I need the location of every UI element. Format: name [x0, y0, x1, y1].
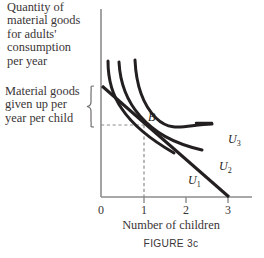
curve-label-u2-text: U [219, 159, 228, 173]
figure-container: Quantity of material goods for adults' c… [0, 0, 264, 258]
indifference-curve-u3 [135, 60, 212, 127]
curve-label-u1-sub: 1 [197, 180, 201, 189]
curve-label-u1: U1 [176, 158, 201, 204]
curve-label-u1-text: U [188, 173, 197, 187]
y-axis-label: Quantity of material goods for adults' c… [7, 1, 99, 68]
figure-caption: FIGURE 3c [101, 238, 241, 249]
curve-label-u3-sub: 3 [237, 139, 241, 148]
tangency-point-label-b: B [148, 110, 155, 125]
brace-bracket [87, 86, 94, 127]
x-axis-label: Number of children [101, 218, 241, 233]
x-tick-label-1: 1 [136, 203, 152, 218]
x-tick-label-3: 3 [220, 203, 236, 218]
x-tick-label-2: 2 [178, 203, 194, 218]
x-tick-label-0: 0 [93, 203, 109, 218]
curve-label-u2-sub: 2 [228, 166, 232, 175]
curve-label-u2: U2 [207, 144, 232, 190]
bracket-annotation-label: Material goods given up per year per chi… [5, 85, 81, 125]
